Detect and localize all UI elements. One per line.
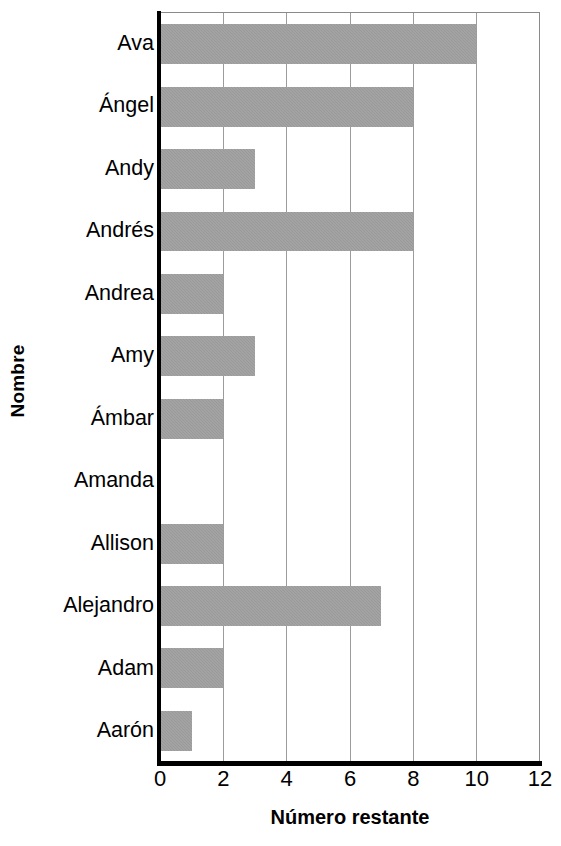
bar-row xyxy=(160,200,539,262)
bar xyxy=(160,149,255,189)
bar xyxy=(160,274,223,314)
bar xyxy=(160,648,223,688)
x-axis-tick-label: 6 xyxy=(344,768,356,790)
bar xyxy=(160,524,223,564)
plot-area xyxy=(160,12,540,762)
bar-row xyxy=(160,75,539,137)
bar xyxy=(160,399,223,439)
bar xyxy=(160,24,476,64)
category-label: Andrea xyxy=(20,262,158,325)
x-axis-tick-label: 10 xyxy=(464,768,488,790)
category-label: Ángel xyxy=(20,75,158,138)
category-label: Amy xyxy=(20,325,158,388)
bar-row xyxy=(160,138,539,200)
y-axis-spine xyxy=(157,11,161,765)
bar xyxy=(160,336,255,376)
bar xyxy=(160,586,381,626)
category-label: Andy xyxy=(20,137,158,200)
bar-series xyxy=(160,13,539,762)
x-axis-tick-label: 0 xyxy=(154,768,166,790)
x-axis-tick-label: 8 xyxy=(407,768,419,790)
category-axis-labels: AvaÁngelAndyAndrésAndreaAmyÁmbarAmandaAl… xyxy=(20,12,158,762)
x-axis-tick-label: 12 xyxy=(528,768,552,790)
x-axis-tick-label: 4 xyxy=(281,768,293,790)
x-axis-tick-label: 2 xyxy=(217,768,229,790)
bar xyxy=(160,711,192,751)
category-label: Alejandro xyxy=(20,575,158,638)
bar-row xyxy=(160,388,539,450)
x-axis-tick-labels: 024681012 xyxy=(160,768,540,800)
bar-row xyxy=(160,575,539,637)
bar xyxy=(160,87,413,127)
bar-row xyxy=(160,450,539,512)
bar xyxy=(160,212,413,252)
category-label: Allison xyxy=(20,512,158,575)
category-label: Adam xyxy=(20,637,158,700)
x-axis-title: Número restante xyxy=(160,806,540,829)
category-label: Andrés xyxy=(20,200,158,263)
bar-chart: Nombre AvaÁngelAndyAndrésAndreaAmyÁmbarA… xyxy=(0,0,561,846)
category-label: Aarón xyxy=(20,700,158,763)
category-label: Amanda xyxy=(20,450,158,513)
bar-row xyxy=(160,700,539,762)
bar-row xyxy=(160,263,539,325)
bar-row xyxy=(160,637,539,699)
bar-row xyxy=(160,512,539,574)
category-label: Ava xyxy=(20,12,158,75)
category-label: Ámbar xyxy=(20,387,158,450)
bar-row xyxy=(160,13,539,75)
bar-row xyxy=(160,325,539,387)
